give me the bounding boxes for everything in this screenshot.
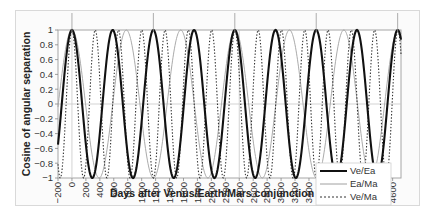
x-axis-title: Days after Venus/Earth/Mars conjunction bbox=[110, 187, 314, 199]
y-tick-label: −0.6 bbox=[34, 143, 53, 154]
legend-label-ea-ma: Ea/Ma bbox=[350, 178, 378, 189]
x-tick-label: 0 bbox=[66, 182, 77, 187]
y-tick-label: 0.8 bbox=[40, 39, 53, 50]
y-tick-label: 1 bbox=[48, 24, 53, 35]
y-axis-title: Cosine of angular separation bbox=[20, 32, 32, 177]
conjunction-markers bbox=[72, 13, 398, 32]
x-tick-label: 400 bbox=[94, 182, 105, 198]
y-tick-label: −0.2 bbox=[34, 113, 53, 124]
y-axis-ticks: 10.80.60.40.20−0.2−0.4−0.6−0.8−1 bbox=[34, 24, 58, 183]
y-tick-label: 0.4 bbox=[40, 69, 53, 80]
y-tick-label: −0.4 bbox=[34, 128, 53, 139]
legend: Ve/Ea Ea/Ma Ve/Ma bbox=[316, 163, 391, 205]
y-tick-label: 0.6 bbox=[40, 54, 53, 65]
y-tick-label: −1 bbox=[42, 172, 53, 183]
legend-label-ve-ma: Ve/Ma bbox=[350, 191, 378, 202]
x-tick-label: 200 bbox=[80, 182, 91, 198]
y-tick-label: 0 bbox=[48, 98, 53, 109]
y-tick-label: −0.8 bbox=[34, 158, 53, 169]
legend-label-ve-ea: Ve/Ea bbox=[350, 165, 376, 176]
x-tick-label: −200 bbox=[52, 182, 63, 203]
line-chart: 10.80.60.40.20−0.2−0.4−0.6−0.8−1 −200020… bbox=[0, 0, 434, 220]
y-tick-label: 0.2 bbox=[40, 84, 53, 95]
